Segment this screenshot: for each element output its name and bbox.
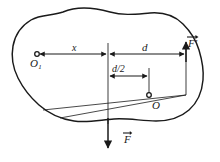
label-force-f-text: F	[124, 133, 131, 145]
label-force-f-prime: F'	[188, 38, 197, 49]
physics-force-diagram: O1 x d d/2 O F' F	[0, 0, 220, 162]
label-force-f-prime-text: F'	[188, 37, 197, 49]
label-force-f: F	[124, 134, 131, 145]
label-point-o1-base: O	[30, 57, 38, 69]
label-point-o: O	[152, 100, 160, 111]
label-point-o1: O1	[30, 58, 42, 71]
point-o1-marker	[35, 52, 40, 57]
label-point-o1-subscript: 1	[38, 63, 42, 70]
slanted-connector-line	[43, 95, 186, 118]
label-distance-d: d	[142, 42, 148, 53]
diagram-canvas	[0, 0, 220, 162]
label-distance-x: x	[72, 43, 76, 53]
label-distance-d-half: d/2	[112, 64, 125, 74]
point-o-marker	[147, 93, 152, 98]
